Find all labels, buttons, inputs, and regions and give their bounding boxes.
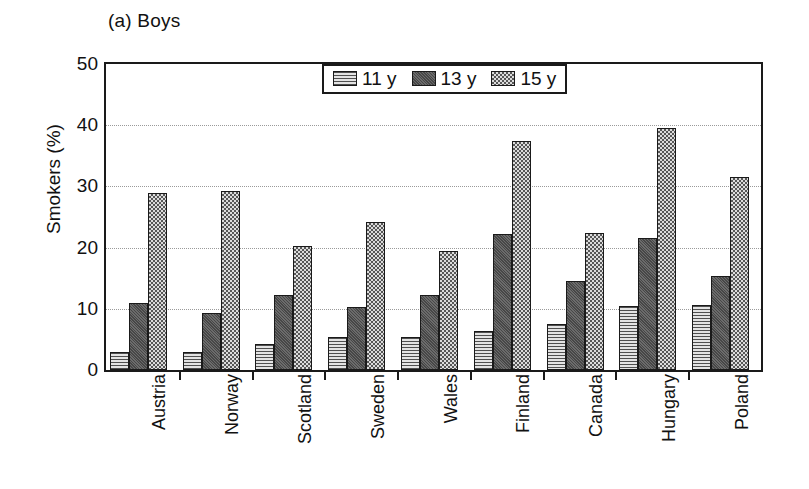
bars-layer [106, 64, 761, 370]
figure-boys-smokers-bar-chart: (a) Boys Smokers (%) 01020304050 Austria… [0, 0, 809, 489]
plot-area [104, 62, 763, 372]
legend-item-13y: 13 y [412, 69, 477, 88]
bar-norway-13y [202, 313, 221, 370]
bar-canada-11y [547, 324, 566, 370]
legend-swatch-horizontal-lines-light [333, 71, 357, 86]
legend-swatch-checkerboard [491, 71, 515, 86]
x-label-norway: Norway [222, 374, 243, 484]
bar-group-poland [688, 64, 761, 370]
y-tick-label-40: 40 [52, 114, 98, 136]
bar-hungary-13y [638, 238, 657, 370]
bar-sweden-11y [328, 337, 347, 370]
x-label-scotland: Scotland [295, 374, 316, 484]
bar-poland-11y [692, 305, 711, 370]
bar-scotland-15y [293, 246, 312, 370]
legend-label-15y: 15 y [520, 69, 556, 88]
y-tick-label-50: 50 [52, 53, 98, 75]
y-axis-tick-labels: 01020304050 [44, 62, 98, 372]
bar-group-canada [543, 64, 616, 370]
bar-wales-15y [439, 251, 458, 370]
legend-swatch-solid-dark-gray [412, 71, 436, 86]
legend-label-11y: 11 y [362, 69, 397, 88]
bar-norway-15y [221, 191, 240, 370]
x-label-hungary: Hungary [659, 374, 680, 484]
x-label-canada: Canada [586, 374, 607, 484]
bar-hungary-11y [619, 306, 638, 370]
legend-item-15y: 15 y [491, 69, 556, 88]
bar-hungary-15y [657, 128, 676, 370]
bar-norway-11y [183, 352, 202, 370]
x-label-poland: Poland [732, 374, 753, 484]
bar-finland-15y [512, 141, 531, 371]
bar-group-austria [106, 64, 179, 370]
bar-group-finland [470, 64, 543, 370]
bar-group-norway [179, 64, 252, 370]
bar-sweden-13y [347, 307, 366, 370]
bar-group-sweden [324, 64, 397, 370]
x-label-wales: Wales [441, 374, 462, 484]
y-tick-label-30: 30 [52, 175, 98, 197]
y-tick-label-20: 20 [52, 237, 98, 259]
x-label-austria: Austria [149, 374, 170, 484]
bar-austria-11y [110, 352, 129, 370]
bar-sweden-15y [366, 222, 385, 370]
bar-poland-13y [711, 276, 730, 370]
chart-legend: 11 y13 y15 y [322, 64, 567, 94]
legend-item-11y: 11 y [333, 69, 397, 88]
bar-group-scotland [252, 64, 325, 370]
bar-poland-15y [730, 177, 749, 370]
bar-canada-15y [585, 233, 604, 370]
bar-group-wales [397, 64, 470, 370]
bar-group-hungary [615, 64, 688, 370]
y-tick-label-10: 10 [52, 298, 98, 320]
x-axis-category-labels: AustriaNorwayScotlandSwedenWalesFinlandC… [104, 378, 763, 488]
x-label-sweden: Sweden [368, 374, 389, 484]
legend-label-13y: 13 y [441, 69, 477, 88]
bar-canada-13y [566, 281, 585, 370]
bar-wales-11y [401, 337, 420, 370]
panel-title: (a) Boys [108, 10, 180, 32]
bar-finland-13y [493, 234, 512, 370]
bar-austria-13y [129, 303, 148, 370]
bar-wales-13y [420, 295, 439, 370]
bar-scotland-13y [274, 295, 293, 370]
bar-scotland-11y [255, 344, 274, 370]
y-tick-label-0: 0 [52, 359, 98, 381]
bar-austria-15y [148, 193, 167, 370]
x-label-finland: Finland [513, 374, 534, 484]
bar-finland-11y [474, 331, 493, 370]
